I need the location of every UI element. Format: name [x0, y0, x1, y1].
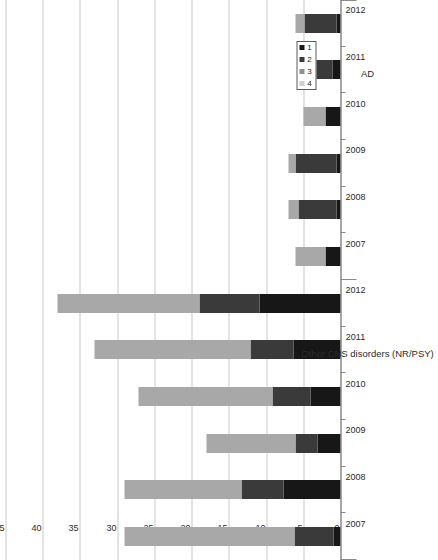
value-tick-label: 45 — [0, 523, 4, 533]
chart-legend[interactable]: 1 2 3 4 — [296, 41, 316, 90]
category-tick — [340, 46, 345, 47]
value-gridline — [228, 0, 229, 560]
value-gridline — [5, 0, 6, 560]
bar-segment-series-1 — [283, 481, 340, 500]
bar-segment-series-2 — [295, 154, 335, 173]
bar-segment-series-1 — [325, 247, 340, 266]
legend-label-4: 4 — [307, 80, 311, 88]
category-tick — [340, 139, 345, 140]
legend-label-2: 2 — [307, 56, 311, 64]
category-label-2012: 2012 — [335, 5, 375, 15]
bar-segment-series-2 — [241, 481, 283, 500]
category-label-2009: 2009 — [335, 145, 375, 155]
legend-label-3: 3 — [307, 68, 311, 76]
legend-swatch-4 — [299, 81, 304, 86]
bar-segment-series-3 — [124, 527, 294, 546]
group-separator — [340, 279, 356, 280]
category-tick — [340, 512, 345, 513]
legend-swatch-2 — [299, 57, 304, 62]
group-label: Other CNS disorders (NR/PSY) — [287, 348, 438, 359]
category-tick — [340, 372, 345, 373]
bar-segment-series-3 — [94, 341, 250, 360]
category-label-2011: 2011 — [335, 52, 375, 62]
category-tick — [340, 92, 345, 93]
category-tick — [340, 466, 345, 467]
group-separator — [340, 0, 356, 1]
value-gridline — [79, 0, 80, 560]
bar-segment-series-2 — [294, 527, 333, 546]
bar-segment-series-2 — [272, 387, 310, 406]
category-axis: 2007200820092010201120122007200820092010… — [340, 0, 377, 560]
legend-item[interactable]: 3 — [299, 69, 313, 74]
category-label-2008: 2008 — [335, 192, 375, 202]
bar-segment-series-3 — [295, 14, 304, 33]
value-gridline — [42, 0, 43, 560]
category-tick — [340, 326, 345, 327]
legend-item[interactable]: 1 — [299, 45, 313, 50]
bar-segment-series-3 — [206, 434, 295, 453]
category-label-2009: 2009 — [335, 425, 375, 435]
legend-label-1: 1 — [307, 44, 311, 52]
legend-item[interactable]: 2 — [299, 57, 313, 62]
bar-segment-series-1 — [336, 154, 340, 173]
bar-segment-series-3 — [57, 294, 199, 313]
bar-segment-series-2 — [304, 14, 335, 33]
value-tick-label: 40 — [7, 523, 41, 533]
legend-swatch-3 — [299, 69, 304, 74]
value-gridline — [117, 0, 118, 560]
value-tick-label: 30 — [82, 523, 116, 533]
category-label-2012: 2012 — [335, 285, 375, 295]
value-gridline — [191, 0, 192, 560]
category-tick — [340, 186, 345, 187]
legend-item[interactable]: 4 — [299, 81, 313, 86]
bar-segment-series-3 — [295, 247, 325, 266]
category-label-2011: 2011 — [335, 332, 375, 342]
category-label-2007: 2007 — [335, 239, 375, 249]
bar-segment-series-3 — [138, 387, 272, 406]
bar-segment-series-3 — [288, 154, 295, 173]
bar-segment-series-1 — [317, 434, 340, 453]
bar-segment-series-2 — [295, 434, 317, 453]
category-tick — [340, 232, 345, 233]
value-gridline — [154, 0, 155, 560]
category-label-2008: 2008 — [335, 472, 375, 482]
bar-segment-series-1 — [333, 527, 340, 546]
category-tick — [340, 419, 345, 420]
legend-swatch-1 — [299, 45, 304, 50]
bar-segment-series-2 — [199, 294, 259, 313]
value-gridline — [266, 0, 267, 560]
category-label-2007: 2007 — [335, 519, 375, 529]
category-label-2010: 2010 — [335, 99, 375, 109]
value-tick-label: 35 — [44, 523, 78, 533]
bar-segment-series-1 — [325, 107, 340, 126]
bar-segment-series-3 — [303, 107, 325, 126]
bar-segment-series-1 — [259, 294, 340, 313]
bar-segment-series-3 — [288, 201, 298, 220]
bar-segment-series-2 — [298, 201, 335, 220]
bar-segment-series-1 — [310, 387, 340, 406]
bar-segment-series-1 — [336, 201, 340, 220]
plot-area: 454035302520151050 — [5, 0, 340, 560]
category-label-2010: 2010 — [335, 379, 375, 389]
bar-segment-series-3 — [124, 481, 241, 500]
bar-segment-series-1 — [336, 14, 340, 33]
